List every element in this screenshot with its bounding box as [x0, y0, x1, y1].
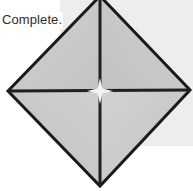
caption-label: Complete.	[1, 12, 63, 29]
diagram-canvas: Complete.	[0, 0, 193, 191]
